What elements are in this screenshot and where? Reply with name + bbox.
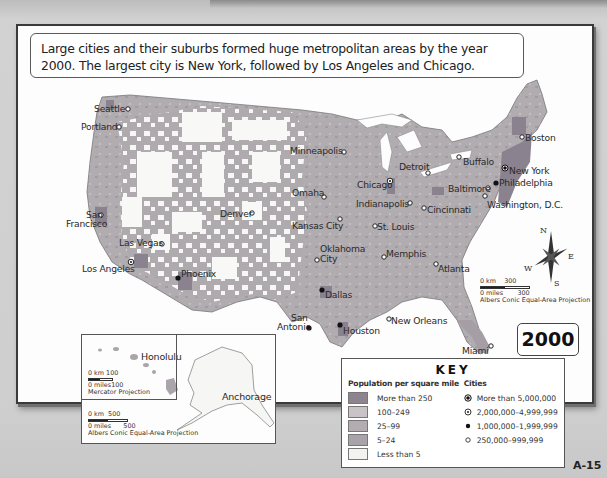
label-phoenix: Phoenix [181, 269, 216, 279]
label-denver: Denver [220, 209, 252, 219]
main-scale: 0 km 300 0 miles 300 Albers Conic Equal-… [480, 278, 590, 304]
label-san-antonio-2: Antonio [277, 322, 311, 332]
city-marker-buffalo [457, 155, 461, 159]
scale-km-value: 300 [504, 277, 516, 285]
label-washington: Washington, D.C. [487, 200, 563, 210]
density-heading: Population per square mile [348, 379, 462, 388]
caption-box: Large cities and their suburbs formed hu… [30, 33, 524, 78]
swatch-100-249 [348, 406, 368, 418]
key-city-row: 1,000,000–1,999,999 [464, 419, 558, 433]
city-marker-seattle [126, 107, 130, 111]
label-los-angeles: Los Angeles [82, 264, 135, 274]
key-density-row: 25–99 [348, 419, 462, 433]
city-marker-portland [117, 125, 121, 129]
label-chicago: Chicago [357, 180, 393, 190]
label-new-york: New York [509, 166, 549, 176]
cities-heading: Cities [464, 379, 558, 388]
label-atlanta: Atlanta [438, 264, 470, 274]
city-marker-houston [337, 322, 342, 327]
caption-line-2: 2000. The largest city is New York, foll… [41, 57, 513, 74]
label-omaha: Omaha [292, 188, 324, 198]
label-baltimore: Baltimore [448, 184, 491, 194]
label-houston: Houston [343, 326, 380, 336]
label-st-louis: St. Louis [377, 222, 414, 232]
key-city-row: 2,000,000–4,999,999 [464, 405, 558, 419]
label-seattle: Seattle [94, 104, 125, 114]
hawaii-inset [82, 335, 177, 400]
label-detroit: Detroit [399, 162, 429, 172]
key-density-row: 100–249 [348, 405, 462, 419]
compass-n: N [540, 226, 547, 236]
city-symbol-1m-icon [464, 422, 472, 430]
label-las-vegas: Las Vegas [119, 238, 163, 248]
city-symbol-5m-icon [464, 394, 472, 402]
compass-w: W [524, 264, 532, 274]
compass-e: E [568, 252, 574, 262]
label-portland: Portland [81, 122, 117, 132]
scale-km-label: 0 km [480, 277, 496, 285]
scale-projection: Albers Conic Equal-Area Projection [480, 297, 590, 304]
key-city-row: 250,000–999,999 [464, 433, 558, 447]
label-oklahoma-city-2: City [320, 254, 337, 264]
city-marker-boston [520, 135, 524, 139]
key-density-row: More than 250 [348, 391, 462, 405]
city-marker-dallas [319, 287, 324, 292]
city-symbol-250k-icon [464, 436, 472, 444]
city-marker-oklahoma-city [315, 258, 319, 262]
map-key: KEY Population per square mile More than… [341, 358, 565, 468]
year-badge: 2000 [517, 323, 579, 356]
city-marker-miami [489, 344, 493, 348]
label-philadelphia: Philadelphia [499, 178, 553, 188]
label-minneapolis: Minneapolis [290, 146, 343, 156]
city-marker-phoenix [175, 275, 180, 280]
alaska-inset: Honolulu Anchorage 0 km 100 0 miles100 M… [81, 334, 276, 444]
label-memphis: Memphis [386, 249, 426, 259]
alaska-scale: 0 km 500 0 miles 500 Albers Conic Equal-… [88, 411, 198, 437]
city-marker-philadelphia [493, 180, 498, 185]
label-san-francisco-2: Francisco [66, 219, 107, 229]
label-cincinnati: Cincinnati [427, 205, 471, 215]
key-city-row: More than 5,000,000 [464, 391, 558, 405]
compass-rose-icon [533, 231, 569, 283]
key-density-row: Less than 5 [348, 447, 462, 461]
label-new-orleans: New Orleans [391, 316, 447, 326]
swatch-more-than-250 [348, 392, 368, 404]
label-boston: Boston [525, 133, 556, 143]
caption-line-1: Large cities and their suburbs formed hu… [41, 40, 513, 57]
city-marker-washington [483, 194, 487, 198]
label-miami: Miami [462, 346, 489, 356]
label-dallas: Dallas [325, 290, 352, 300]
city-marker-cincinnati [422, 206, 426, 210]
label-anchorage: Anchorage [222, 392, 271, 402]
swatch-less-than-5 [348, 448, 368, 460]
label-indianapolis: Indianapolis [356, 199, 409, 209]
label-buffalo: Buffalo [463, 157, 494, 167]
swatch-5-24 [348, 434, 368, 446]
city-symbol-2m-icon [464, 408, 472, 416]
label-kansas-city: Kansas City [292, 221, 343, 231]
swatch-25-99 [348, 420, 368, 432]
key-title: KEY [348, 363, 558, 377]
key-density-row: 5–24 [348, 433, 462, 447]
